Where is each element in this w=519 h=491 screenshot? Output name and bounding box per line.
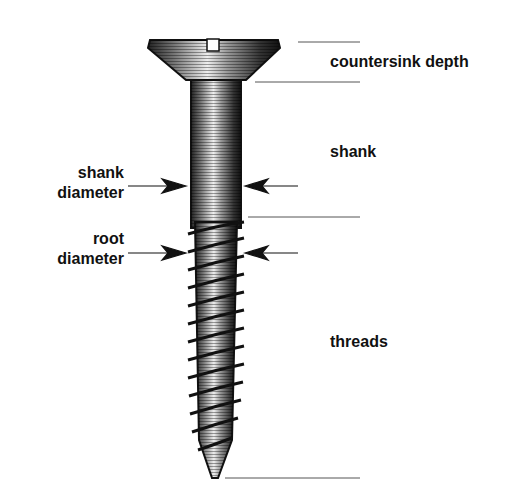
screw-threads [188, 222, 244, 478]
label-shank-diameter: shank diameter [40, 163, 124, 203]
label-shank-diameter-line1: shank [40, 163, 124, 183]
shank-diameter-left-arrow [128, 179, 186, 193]
label-shank-diameter-line2: diameter [40, 183, 124, 203]
label-countersink-depth: countersink depth [330, 52, 469, 72]
label-threads: threads [330, 332, 388, 352]
screw-shank [191, 80, 241, 228]
label-shank: shank [330, 142, 376, 162]
label-root-diameter: root diameter [40, 229, 124, 269]
label-root-diameter-line1: root [40, 229, 124, 249]
shank-diameter-right-arrow [245, 179, 298, 193]
guide-lines [225, 42, 360, 478]
root-diameter-left-arrow [128, 246, 186, 260]
root-diameter-right-arrow [245, 246, 298, 260]
screw-head [148, 39, 280, 80]
label-root-diameter-line2: diameter [40, 249, 124, 269]
